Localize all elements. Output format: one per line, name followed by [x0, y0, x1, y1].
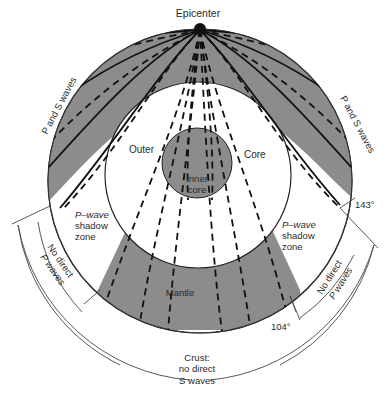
shadow-zone-right-label-1: P–wave — [282, 219, 316, 230]
shadow-zone-right-label-3: zone — [282, 241, 303, 252]
shadow-zone-left-label-1: P–wave — [75, 209, 109, 220]
angle-143-label: 143° — [355, 199, 375, 210]
earth-seismic-diagram: Epicenter P and S waves P and S waves Ou… — [0, 0, 388, 393]
angle-104-label: 104° — [271, 321, 291, 332]
core-label: Core — [244, 149, 266, 160]
outer-core-label: Outer — [129, 144, 155, 155]
crust-label-1: Crust: — [184, 352, 209, 363]
mantle-label: Mantle — [166, 287, 195, 298]
shadow-zone-left-label-2: shadow — [75, 220, 108, 231]
crust-label-2: no direct — [179, 363, 216, 374]
epicenter-marker — [194, 23, 206, 35]
crust-label-3: S waves — [179, 375, 215, 386]
inner-core-label-1: Inner — [186, 173, 208, 184]
epicenter-label: Epicenter — [176, 7, 221, 19]
shadow-zone-right-label-2: shadow — [282, 230, 315, 241]
inner-core-label-2: core — [188, 184, 206, 195]
shadow-zone-left-label-3: zone — [75, 231, 96, 242]
